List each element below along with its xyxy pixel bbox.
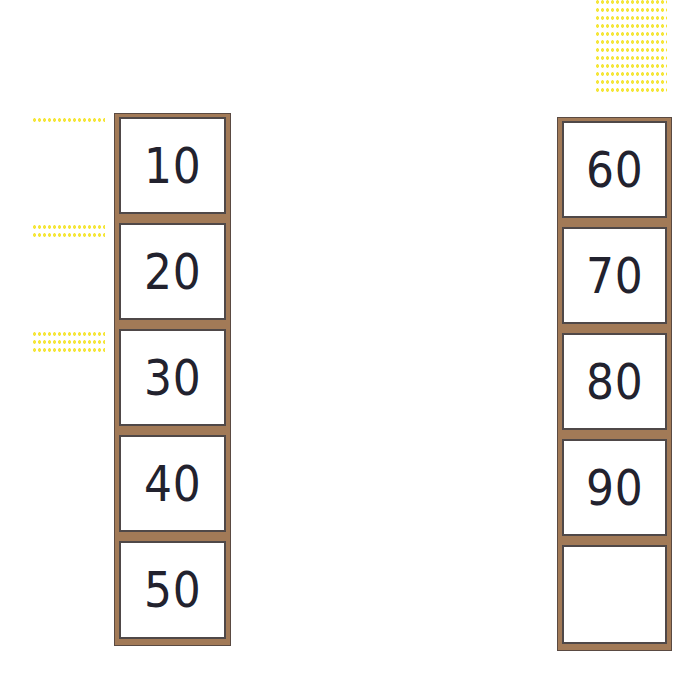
cell-10[interactable]: 10 — [119, 117, 226, 214]
cell-value: 70 — [586, 247, 644, 305]
cell-value: 10 — [144, 137, 202, 195]
cell-80[interactable]: 80 — [562, 333, 667, 430]
cell-90[interactable]: 90 — [562, 439, 667, 536]
cell-20[interactable]: 20 — [119, 223, 226, 320]
cell-70[interactable]: 70 — [562, 227, 667, 324]
cell-value: 80 — [586, 353, 644, 411]
right-number-column: 60 70 80 90 — [557, 117, 672, 651]
cell-50[interactable]: 50 — [119, 541, 226, 639]
left-number-column: 10 20 30 40 50 — [114, 113, 231, 646]
cell-30[interactable]: 30 — [119, 329, 226, 426]
yellow-mark-block — [595, 0, 667, 96]
cell-empty[interactable] — [562, 545, 667, 644]
cell-value: 90 — [586, 459, 644, 517]
cell-60[interactable]: 60 — [562, 121, 667, 218]
cell-40[interactable]: 40 — [119, 435, 226, 532]
cell-value: 30 — [144, 349, 202, 407]
yellow-mark-3 — [32, 332, 105, 356]
yellow-mark-1 — [32, 118, 105, 126]
cell-value: 20 — [144, 243, 202, 301]
cell-value: 60 — [586, 141, 644, 199]
cell-value: 50 — [144, 561, 202, 619]
yellow-mark-2 — [32, 225, 105, 241]
cell-value: 40 — [144, 455, 202, 513]
